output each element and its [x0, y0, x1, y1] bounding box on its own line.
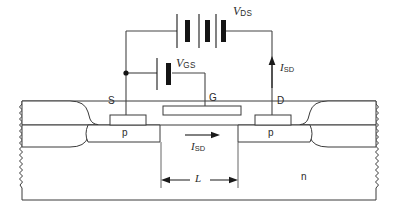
- isd-vertical-arrow: [269, 56, 276, 88]
- gate-electrode: [163, 106, 241, 115]
- label-channel-length: L: [195, 173, 201, 184]
- battery-vds-symbol: [177, 14, 226, 48]
- source-contact-pad: [110, 115, 146, 125]
- label-source-terminal: S: [108, 96, 115, 106]
- label-vds: VDS: [233, 5, 252, 19]
- label-vgs: VGS: [176, 57, 196, 71]
- label-gate-terminal: G: [209, 93, 217, 103]
- right-contact-region: [300, 101, 376, 147]
- left-contact-region: [22, 101, 98, 147]
- label-isd-vertical: ISD: [280, 62, 294, 74]
- label-substrate-n: n: [301, 172, 307, 182]
- drain-contact-pad: [255, 115, 291, 125]
- p-region-right: [238, 125, 312, 142]
- label-drain-terminal: D: [277, 96, 284, 106]
- label-isd-channel: ISD: [191, 141, 205, 153]
- figure-canvas: VDS VGS ISD ISD S G D p p n L: [0, 0, 398, 213]
- battery-vgs-symbol: [157, 58, 171, 90]
- label-p-region-right: p: [268, 128, 274, 138]
- label-p-region-left: p: [122, 128, 128, 138]
